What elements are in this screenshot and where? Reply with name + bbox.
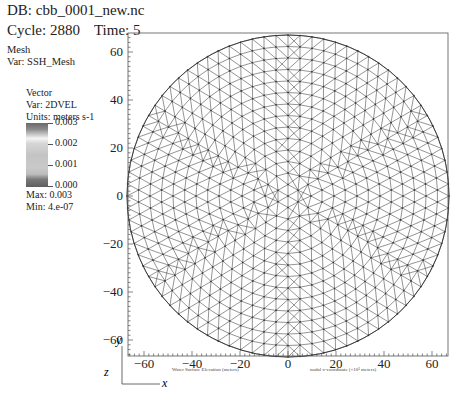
axis-ticks [128, 38, 446, 356]
tick-label: 60 [110, 44, 123, 59]
tick-label: 60 [426, 356, 439, 371]
tick-label: −20 [103, 236, 123, 251]
triangle-mesh [126, 34, 450, 358]
tick-label: 40 [110, 92, 123, 107]
mesh-plot: −60−40−200204060−60−40−200204060 Water S… [0, 0, 463, 397]
triad-z-label: z [103, 365, 109, 379]
tick-label: −60 [134, 356, 154, 371]
secondary-caption: Water Surface Elevation (meters) [172, 367, 239, 372]
triad-y-label: y [115, 333, 122, 347]
x-axis-caption: nodal x-coordinate (×10³ meters) [310, 367, 376, 372]
tick-label: 0 [285, 356, 292, 371]
tick-label: 40 [378, 356, 391, 371]
triad-x-label: x [161, 376, 168, 390]
tick-label: 20 [110, 140, 123, 155]
tick-label: −40 [103, 284, 123, 299]
tick-label: 0 [117, 188, 124, 203]
